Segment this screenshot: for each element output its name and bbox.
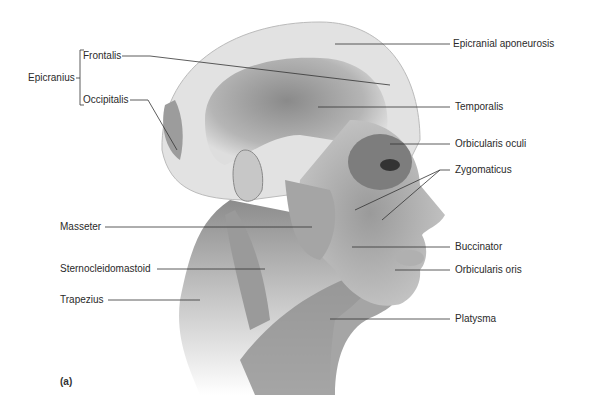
label-masseter: Masseter xyxy=(60,221,101,233)
label-orbicularis-oris: Orbicularis oris xyxy=(455,264,522,276)
label-buccinator: Buccinator xyxy=(455,241,502,253)
label-orbicularis-oculi: Orbicularis oculi xyxy=(455,138,526,150)
label-trapezius: Trapezius xyxy=(60,294,104,306)
label-platysma: Platysma xyxy=(455,313,496,325)
label-epicranial-aponeurosis: Epicranial aponeurosis xyxy=(453,38,554,50)
lips-shape xyxy=(396,250,424,266)
panel-label: (a) xyxy=(60,376,72,387)
label-temporalis: Temporalis xyxy=(455,101,503,113)
label-occipitalis: Occipitalis xyxy=(83,94,129,106)
label-epicranius: Epicranius xyxy=(28,72,75,84)
label-sternocleidomastoid: Sternocleidomastoid xyxy=(60,263,151,275)
label-frontalis: Frontalis xyxy=(83,50,121,62)
eye-shape xyxy=(380,159,400,171)
orbicularis-oculi-shape xyxy=(348,134,412,190)
label-zygomaticus: Zygomaticus xyxy=(455,164,512,176)
